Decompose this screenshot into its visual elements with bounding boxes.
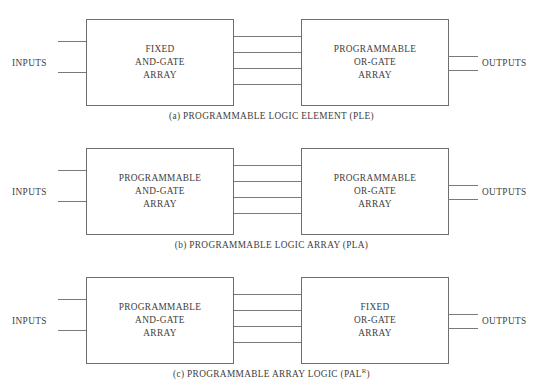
interconnect-wire-1 [234, 294, 302, 295]
outputs-label: OUTPUTS [482, 58, 527, 68]
or-box-line-1: FIXED [360, 301, 389, 314]
or-box-line-3: ARRAY [358, 198, 391, 211]
and-box-line-2: AND-GATE [135, 314, 185, 327]
or-box-line-3: ARRAY [358, 327, 391, 340]
and-box-line-1: FIXED [145, 43, 174, 56]
input-wire-2 [58, 330, 87, 331]
and-box-line-3: ARRAY [143, 327, 176, 340]
or-gate-array-box: PROGRAMMABLE OR-GATE ARRAY [301, 148, 449, 235]
and-box-line-2: AND-GATE [135, 56, 185, 69]
input-wire-1 [58, 170, 87, 171]
diagram-caption: (b) PROGRAMMABLE LOGIC ARRAY (PLA) [0, 240, 543, 250]
diagram-pla: INPUTS PROGRAMMABLE AND-GATE ARRAY PROGR… [0, 129, 543, 258]
output-wire-2 [448, 70, 478, 71]
output-wire-2 [448, 199, 478, 200]
input-wire-2 [58, 72, 87, 73]
interconnect-wire-4 [234, 84, 302, 85]
and-gate-array-box: PROGRAMMABLE AND-GATE ARRAY [86, 277, 234, 364]
or-box-line-2: OR-GATE [354, 314, 396, 327]
caption-suffix: ) [367, 369, 370, 379]
or-box-line-1: PROGRAMMABLE [334, 172, 417, 185]
outputs-label: OUTPUTS [482, 316, 527, 326]
outputs-label: OUTPUTS [482, 187, 527, 197]
interconnect-wire-3 [234, 68, 302, 69]
interconnect-wire-2 [234, 310, 302, 311]
caption-prefix: (c) [173, 369, 184, 379]
output-wire-2 [448, 328, 478, 329]
interconnect-wire-3 [234, 197, 302, 198]
input-wire-1 [58, 41, 87, 42]
interconnect-wire-3 [234, 326, 302, 327]
input-wire-2 [58, 201, 87, 202]
or-box-line-2: OR-GATE [354, 185, 396, 198]
or-gate-array-box: PROGRAMMABLE OR-GATE ARRAY [301, 19, 449, 106]
caption-prefix: (b) [175, 240, 187, 250]
interconnect-wire-4 [234, 213, 302, 214]
and-gate-array-box: PROGRAMMABLE AND-GATE ARRAY [86, 148, 234, 235]
interconnect-wire-1 [234, 36, 302, 37]
output-wire-1 [448, 314, 478, 315]
and-box-line-3: ARRAY [143, 69, 176, 82]
interconnect-wire-2 [234, 52, 302, 53]
output-wire-1 [448, 56, 478, 57]
inputs-label: INPUTS [12, 58, 47, 68]
and-box-line-1: PROGRAMMABLE [119, 172, 202, 185]
and-box-line-2: AND-GATE [135, 185, 185, 198]
and-box-line-1: PROGRAMMABLE [119, 301, 202, 314]
inputs-label: INPUTS [12, 316, 47, 326]
diagram-pal: INPUTS PROGRAMMABLE AND-GATE ARRAY FIXED… [0, 258, 543, 387]
caption-text: PROGRAMMABLE LOGIC ELEMENT (PLE) [183, 111, 374, 121]
interconnect-wire-1 [234, 165, 302, 166]
diagram-ple: INPUTS FIXED AND-GATE ARRAY PROGRAMMABLE… [0, 0, 543, 129]
inputs-label: INPUTS [12, 187, 47, 197]
output-wire-1 [448, 185, 478, 186]
or-box-line-1: PROGRAMMABLE [334, 43, 417, 56]
or-box-line-3: ARRAY [358, 69, 391, 82]
input-wire-1 [58, 299, 87, 300]
caption-prefix: (a) [169, 111, 180, 121]
and-gate-array-box: FIXED AND-GATE ARRAY [86, 19, 234, 106]
or-box-line-2: OR-GATE [354, 56, 396, 69]
caption-text: PROGRAMMABLE ARRAY LOGIC (PAL [187, 369, 362, 379]
diagram-caption: (c) PROGRAMMABLE ARRAY LOGIC (PALR) [0, 369, 543, 379]
or-gate-array-box: FIXED OR-GATE ARRAY [301, 277, 449, 364]
diagram-caption: (a) PROGRAMMABLE LOGIC ELEMENT (PLE) [0, 111, 543, 121]
and-box-line-3: ARRAY [143, 198, 176, 211]
caption-text: PROGRAMMABLE LOGIC ARRAY (PLA) [189, 240, 368, 250]
interconnect-wire-2 [234, 181, 302, 182]
interconnect-wire-4 [234, 342, 302, 343]
